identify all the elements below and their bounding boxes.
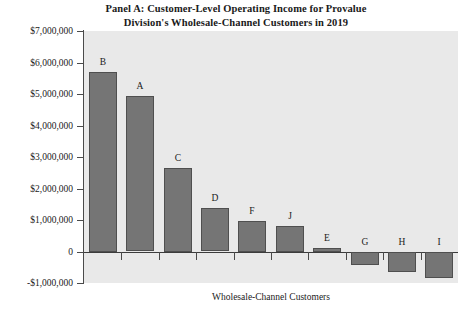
x-axis-tick [196, 252, 197, 260]
chart-title-line-1: Panel A: Customer-Level Operating Income… [0, 2, 472, 16]
x-axis-tick [121, 252, 122, 260]
bar-label-F: F [232, 206, 272, 216]
y-axis-tick [77, 189, 84, 190]
x-axis-tick [346, 252, 347, 260]
bar-B [89, 72, 117, 252]
y-axis-tick-label: -$1,000,000 [0, 278, 73, 288]
bar-label-G: G [345, 237, 385, 247]
bar-label-B: B [83, 57, 123, 67]
bar-label-A: A [120, 81, 160, 91]
bar-label-C: C [158, 153, 198, 163]
y-axis-tick-label: 0 [0, 247, 73, 257]
y-axis-tick-label: $1,000,000 [0, 215, 73, 225]
bar-I [425, 252, 453, 278]
y-axis-tick [77, 252, 84, 253]
x-axis-tick [383, 252, 384, 260]
x-axis-tick [421, 252, 422, 260]
x-axis-tick [159, 252, 160, 260]
bar-label-H: H [382, 237, 422, 247]
chart-figure: Panel A: Customer-Level Operating Income… [0, 0, 472, 316]
bar-E [313, 248, 341, 252]
y-axis-tick [77, 157, 84, 158]
y-axis-tick-label: $6,000,000 [0, 58, 73, 68]
y-axis-tick [77, 126, 84, 127]
y-axis-tick-label: $7,000,000 [0, 26, 73, 36]
bar-G [351, 252, 379, 265]
y-axis-tick-label: $4,000,000 [0, 121, 73, 131]
x-axis-tick [308, 252, 309, 260]
bar-D [201, 208, 229, 251]
y-axis-tick [77, 283, 84, 284]
bar-H [388, 252, 416, 272]
bar-label-I: I [419, 237, 459, 247]
y-axis-tick [77, 94, 84, 95]
bar-A [126, 96, 154, 251]
y-axis-tick-label: $2,000,000 [0, 184, 73, 194]
bar-label-D: D [195, 193, 235, 203]
y-axis-tick [77, 31, 84, 32]
chart-title: Panel A: Customer-Level Operating Income… [0, 2, 472, 29]
bar-label-J: J [270, 211, 310, 221]
y-axis-tick-label: $3,000,000 [0, 152, 73, 162]
bar-F [238, 221, 266, 252]
x-axis-tick [271, 252, 272, 260]
bar-C [164, 168, 192, 252]
y-axis-tick-label: $5,000,000 [0, 89, 73, 99]
y-axis-tick [77, 220, 84, 221]
x-axis-title: Wholesale-Channel Customers [84, 292, 458, 303]
bar-label-E: E [307, 233, 347, 243]
x-axis-tick [234, 252, 235, 260]
bar-J [276, 226, 304, 252]
